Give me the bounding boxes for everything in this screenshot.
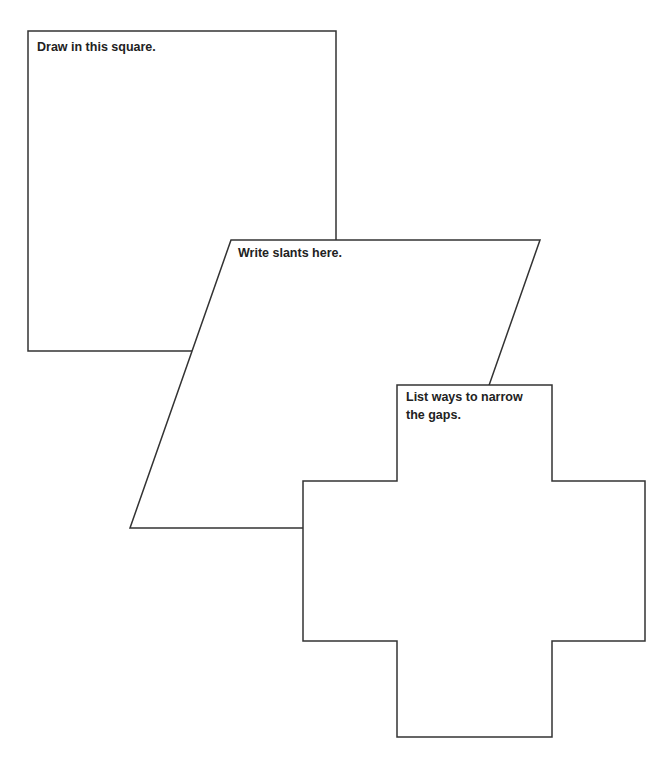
parallelogram-prompt-label: Write slants here. [238, 244, 342, 262]
worksheet-canvas [0, 0, 669, 762]
cross-prompt-label: List ways to narrow the gaps. [406, 388, 546, 424]
square-prompt-label: Draw in this square. [37, 38, 156, 56]
